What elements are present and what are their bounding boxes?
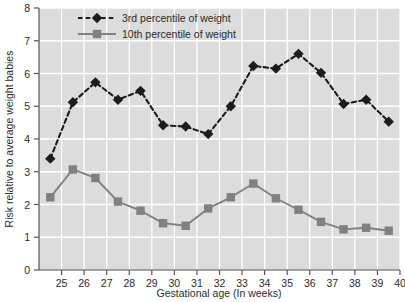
legend-label: 10th percentile of weight <box>122 28 236 40</box>
data-point-marker <box>114 197 122 205</box>
data-point-marker <box>339 225 347 233</box>
y-tick-label: 5 <box>24 100 30 112</box>
data-point-marker <box>181 222 189 230</box>
data-point-marker <box>46 193 54 201</box>
x-axis-title: Gestational age (In weeks) <box>157 287 282 299</box>
data-point-marker <box>91 174 99 182</box>
y-tick-label: 6 <box>24 68 30 80</box>
y-tick-label: 0 <box>24 264 30 276</box>
x-tick-label: 27 <box>101 277 113 289</box>
y-tick-label: 3 <box>24 166 30 178</box>
y-tick-label: 2 <box>24 199 30 211</box>
x-tick-label: 25 <box>56 277 68 289</box>
x-tick-label: 39 <box>372 277 384 289</box>
data-point-marker <box>362 224 370 232</box>
x-tick-label: 40 <box>394 277 405 289</box>
y-axis-title: Risk relative to average weight babies <box>3 51 15 228</box>
y-tick-label: 4 <box>24 133 30 145</box>
risk-vs-gestational-age-line-chart: 012345678 252627282930313233343536373839… <box>0 0 405 302</box>
data-point-marker <box>385 227 393 235</box>
chart-container: 012345678 252627282930313233343536373839… <box>0 0 405 302</box>
data-point-marker <box>249 179 257 187</box>
y-tick-label: 7 <box>24 35 30 47</box>
data-point-marker <box>204 204 212 212</box>
data-point-marker <box>227 193 235 201</box>
data-point-marker <box>69 165 77 173</box>
y-tick-label: 1 <box>24 231 30 243</box>
data-point-marker <box>317 218 325 226</box>
data-point-marker <box>159 219 167 227</box>
x-tick-label: 35 <box>281 277 293 289</box>
x-tick-label: 26 <box>78 277 90 289</box>
data-point-marker <box>136 207 144 215</box>
x-tick-label: 37 <box>326 277 338 289</box>
data-point-marker <box>294 206 302 214</box>
y-axis-tick-labels: 012345678 <box>24 2 30 276</box>
x-tick-label: 38 <box>349 277 361 289</box>
y-tick-label: 8 <box>24 2 30 14</box>
data-point-marker <box>272 194 280 202</box>
legend-label: 3rd percentile of weight <box>122 12 231 24</box>
x-tick-label: 28 <box>123 277 135 289</box>
legend-marker-square <box>93 30 101 38</box>
x-tick-label: 36 <box>304 277 316 289</box>
